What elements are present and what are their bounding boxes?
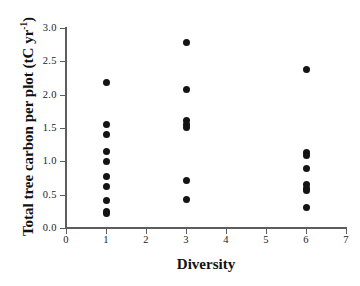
y-tick-mark [60, 128, 65, 129]
data-point [103, 173, 110, 180]
x-tick-label: 1 [96, 234, 116, 245]
data-point [303, 187, 310, 194]
x-tick-label: 3 [176, 234, 196, 245]
data-point [183, 39, 190, 46]
data-point [103, 79, 110, 86]
data-point [103, 210, 110, 217]
data-point [183, 124, 190, 131]
data-point [103, 148, 110, 155]
x-tick-label: 2 [136, 234, 156, 245]
data-point [103, 197, 110, 204]
x-tick-label: 4 [216, 234, 236, 245]
data-point [183, 196, 190, 203]
data-point [103, 158, 110, 165]
x-tick-label: 7 [336, 234, 356, 245]
scatter-plot-figure: 0.00.51.01.52.02.53.0 01234567 Total tre… [0, 0, 360, 286]
x-tick-label: 0 [56, 234, 76, 245]
y-tick-mark [60, 161, 65, 162]
data-point [103, 131, 110, 138]
data-point [303, 66, 310, 73]
data-point [183, 177, 190, 184]
data-point [183, 86, 190, 93]
x-tick-label: 6 [296, 234, 316, 245]
y-axis-title: Total tree carbon per plot (tC yr-1) [20, 3, 37, 251]
x-tick-label: 5 [256, 234, 276, 245]
x-axis-title: Diversity [66, 256, 346, 273]
y-axis-title-exponent: -1 [19, 22, 29, 30]
y-tick-mark [60, 61, 65, 62]
data-point [303, 204, 310, 211]
data-point [103, 183, 110, 190]
data-point [103, 121, 110, 128]
data-point [303, 152, 310, 159]
y-tick-mark [60, 28, 65, 29]
y-tick-mark [60, 195, 65, 196]
y-tick-mark [60, 95, 65, 96]
y-tick-mark [60, 228, 65, 229]
data-point [303, 165, 310, 172]
